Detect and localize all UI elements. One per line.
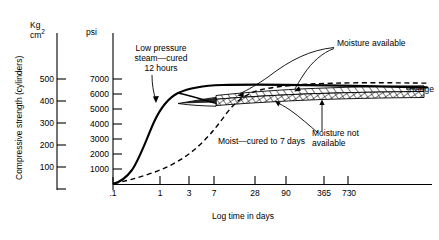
psi-tick-1000: 1000: [72, 164, 109, 174]
range-annotation: Range: [409, 84, 434, 94]
kg-tick-400: 400: [24, 96, 54, 106]
x-tick-28: 28: [245, 188, 265, 198]
y-axis-title: Compressive strength (cylinders): [14, 56, 24, 180]
kg-tick-200: 200: [24, 140, 54, 150]
steam-cured-line3: 12 hours: [144, 63, 177, 73]
chart-figure: Kg cm2 psi 500 400 300 200 100 7000 6000…: [0, 0, 439, 240]
x-axis-title: Log time in days: [178, 211, 308, 221]
steam-cured-annotation: Low pressure steam—cured 12 hours: [118, 43, 204, 73]
x-tick-1: 1: [150, 188, 170, 198]
x-tick-7: 7: [204, 188, 224, 198]
moisture-not-available-line1: Moisture not: [312, 128, 359, 138]
x-tick-365: 365: [312, 188, 336, 198]
psi-tick-5000: 5000: [72, 104, 109, 114]
psi-tick-4000: 4000: [72, 119, 109, 129]
psi-unit-label: psi: [86, 27, 97, 37]
kg-tick-100: 100: [24, 162, 54, 172]
kg-tick-300: 300: [24, 118, 54, 128]
x-tick-0-1: .1: [103, 188, 123, 198]
psi-tick-6000: 6000: [72, 89, 109, 99]
steam-cured-line1: Low pressure: [135, 43, 186, 53]
moisture-not-available-annotation: Moisture not available: [312, 128, 359, 148]
x-tick-90: 90: [276, 188, 296, 198]
kg-unit-line1: Kg: [30, 20, 40, 30]
kg-unit-label: Kg cm2: [30, 20, 45, 40]
steam-cured-leader-arrow: [152, 75, 159, 103]
x-axis: [113, 176, 432, 185]
kg-tick-500: 500: [24, 74, 54, 84]
moisture-available-annotation: Moisture available: [337, 38, 406, 48]
x-tick-3: 3: [179, 188, 199, 198]
moisture-not-available-line2: available: [312, 138, 346, 148]
x-tick-730: 730: [337, 188, 361, 198]
moist-cured-annotation: Moist—cured to 7 days: [218, 136, 305, 146]
psi-tick-3000: 3000: [72, 134, 109, 144]
kg-unit-line2: cm2: [30, 30, 45, 40]
chart-canvas: [0, 0, 439, 240]
psi-tick-7000: 7000: [72, 74, 109, 84]
steam-cured-line2: steam—cured: [135, 53, 188, 63]
left-axis-kg: [57, 33, 66, 190]
psi-tick-2000: 2000: [72, 149, 109, 159]
kg-unit-exponent: 2: [41, 28, 45, 35]
